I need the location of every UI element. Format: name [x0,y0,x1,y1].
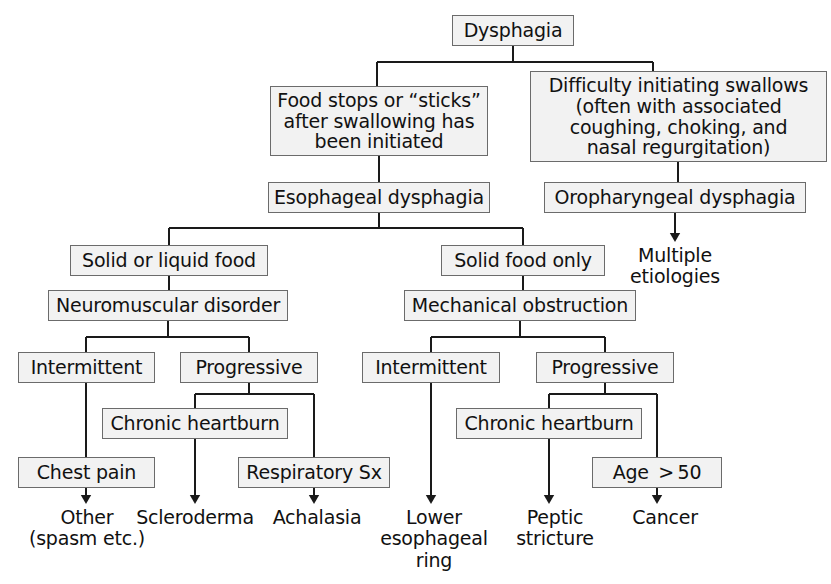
node-esophageal_dysphagia: Esophageal dysphagia [268,182,490,213]
node-food_stops: Food stops or “sticks” after swallowing … [270,86,488,156]
node-lower_esoph_ring: Lower esophageal ring [372,507,496,581]
node-progressive_mech: Progressive [536,352,674,383]
node-progressive_nm: Progressive [180,352,318,383]
arrowhead-icon [309,495,319,504]
node-mechanical: Mechanical obstruction [404,290,636,321]
node-chronic_heartburn_mech: Chronic heartburn [456,408,642,439]
arrowhead-icon [652,495,662,504]
node-age_over_50: Age > 50 [592,457,722,488]
node-chronic_heartburn_nm: Chronic heartburn [102,408,288,439]
node-oropharyngeal_dysphagia: Oropharyngeal dysphagia [544,182,806,213]
node-neuromuscular: Neuromuscular disorder [48,290,288,321]
node-multiple_etiologies: Multiple etiologies [612,245,738,295]
node-cancer: Cancer [613,507,717,533]
node-difficulty_initiating: Difficulty initiating swallows (often wi… [530,71,827,162]
node-scleroderma: Scleroderma [131,507,259,533]
arrowhead-icon [670,233,680,242]
node-peptic_stricture: Peptic stricture [497,507,613,557]
node-solid_only: Solid food only [441,245,605,276]
dysphagia-flowchart: DysphagiaFood stops or “sticks” after sw… [0,0,831,584]
node-chest_pain: Chest pain [18,457,155,488]
node-solid_or_liquid: Solid or liquid food [70,245,268,276]
node-respiratory_sx: Respiratory Sx [238,457,390,488]
node-achalasia: Achalasia [259,507,375,533]
node-intermittent_nm: Intermittent [18,352,155,383]
arrowhead-icon [544,495,554,504]
node-intermittent_mech: Intermittent [362,352,500,383]
node-dysphagia: Dysphagia [452,15,574,46]
arrowhead-icon [426,495,436,504]
arrowhead-icon [81,495,91,504]
arrowhead-icon [190,495,200,504]
